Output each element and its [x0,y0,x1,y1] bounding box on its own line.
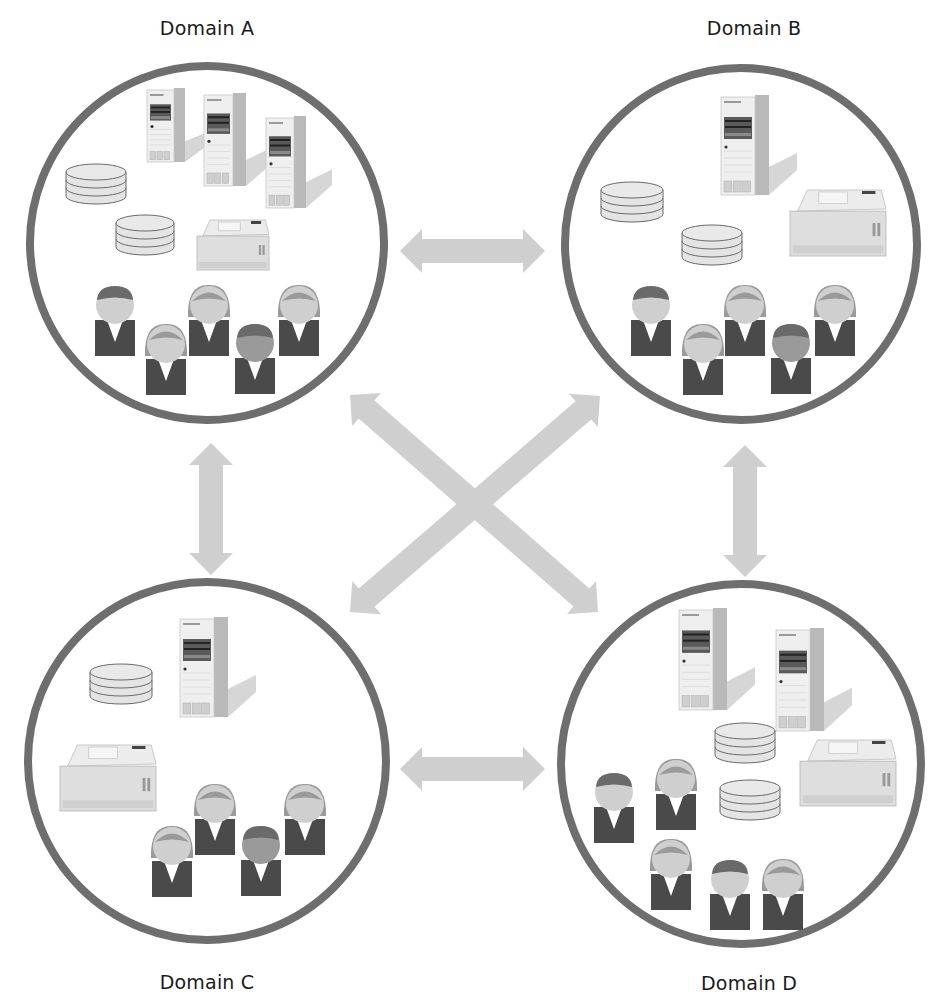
domain-a-label: Domain A [160,17,254,39]
user-male-icon [235,324,275,394]
user-female-icon [724,285,766,356]
user-female-icon [145,324,187,395]
double-arrow-icon [189,443,233,575]
double-arrow-icon [723,445,767,577]
user-female-icon [762,859,804,930]
double-arrow-icon [400,229,545,273]
printer-icon [60,745,156,811]
database-disk-icon [682,225,742,265]
user-male-icon [95,286,135,356]
user-male-icon [710,860,750,930]
user-female-icon [194,784,236,855]
domain-diagram: Domain A Domain B Domain C Domain D [0,0,943,998]
user-male-icon [631,286,671,356]
printer-icon [800,740,896,806]
domain-d-label: Domain D [701,972,797,994]
user-female-icon [650,839,692,910]
database-disk-icon [90,664,152,704]
domain-c-label: Domain C [160,971,255,993]
user-female-icon [682,324,724,395]
database-disk-icon [116,215,174,255]
user-female-icon [188,285,230,356]
user-female-icon [284,784,326,855]
user-female-icon [814,285,856,356]
database-disk-icon [720,780,780,820]
database-disk-icon [715,723,775,763]
printer-icon [790,190,886,256]
double-arrow-icon [400,747,545,791]
user-female-icon [151,826,193,897]
user-male-icon [594,773,634,843]
printer-icon [197,220,269,270]
user-female-icon [278,285,320,356]
database-disk-icon [66,164,126,204]
user-female-icon [655,759,697,830]
database-disk-icon [601,182,663,222]
domain-b-label: Domain B [707,17,801,39]
diagram-canvas [0,0,943,998]
user-male-icon [771,324,811,394]
user-male-icon [241,826,281,896]
